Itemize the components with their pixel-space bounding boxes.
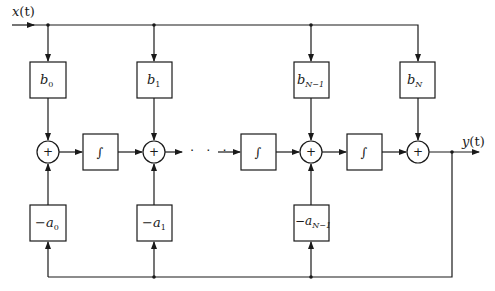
svg-text:∫: ∫ [97, 145, 104, 160]
gain-box-aN-1: −aN−1 [294, 205, 331, 241]
block-diagram: x(t) b0 b1 bN−1 bN + + + [0, 0, 495, 291]
summer-1: + [143, 141, 165, 163]
summer-0: + [37, 141, 59, 163]
summer-N: + [407, 141, 429, 163]
gain-box-b1: b1 [137, 62, 172, 98]
integrator-3: ∫ [347, 134, 382, 170]
svg-text:+: + [43, 145, 53, 159]
svg-text:+: + [306, 145, 316, 159]
output-label: y(t) [461, 134, 485, 149]
input-bus [30, 25, 418, 61]
ellipsis: · · · [190, 143, 231, 158]
svg-text:+: + [149, 145, 159, 159]
gain-box-bN: bN [400, 62, 435, 98]
summer-N-1: + [300, 141, 322, 163]
svg-text:+: + [413, 145, 423, 159]
input-label: x(t) [12, 4, 35, 19]
svg-text:∫: ∫ [361, 145, 368, 160]
gain-box-a0: −a0 [30, 205, 66, 241]
integrator-1: ∫ [83, 134, 118, 170]
gain-box-bN-1: bN−1 [294, 62, 329, 98]
integrator-2: ∫ [241, 134, 276, 170]
feedback-bus [48, 152, 452, 277]
gain-box-a1: −a1 [137, 205, 172, 241]
svg-text:∫: ∫ [255, 145, 262, 160]
gain-box-b0: b0 [30, 62, 66, 98]
